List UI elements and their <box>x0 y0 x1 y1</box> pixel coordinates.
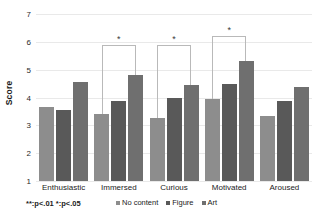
y-axis-tick-label: 2 <box>27 149 31 158</box>
bar[interactable] <box>205 99 220 181</box>
bar-group <box>36 14 91 181</box>
bar[interactable] <box>222 84 237 181</box>
bar[interactable] <box>277 101 292 181</box>
bar-group <box>202 14 257 181</box>
category-label: Immersed <box>91 183 146 196</box>
legend-item[interactable]: Art <box>202 198 218 207</box>
legend-label: Art <box>208 198 218 207</box>
y-axis-title: Score <box>4 67 14 119</box>
bar[interactable] <box>73 82 88 181</box>
y-axis-tick-label: 1 <box>27 177 31 186</box>
legend-label: No content <box>122 198 158 207</box>
bars <box>257 14 312 181</box>
bar[interactable] <box>150 118 165 181</box>
category-label: Motivated <box>202 183 257 196</box>
bar-groups <box>36 14 312 181</box>
legend-swatch-icon <box>202 201 206 205</box>
category-label: Aroused <box>257 183 312 196</box>
legend-item[interactable]: Figure <box>166 198 193 207</box>
bar[interactable] <box>294 87 309 181</box>
bar[interactable] <box>128 75 143 181</box>
bar[interactable] <box>111 101 126 181</box>
bar[interactable] <box>39 107 54 181</box>
significance-footnote: **:p<.01 *:p<.05 <box>26 199 81 208</box>
legend-swatch-icon <box>116 201 120 205</box>
bars <box>146 14 201 181</box>
y-axis-tick-label: 3 <box>27 121 31 130</box>
bar-group <box>146 14 201 181</box>
legend: No contentFigureArt <box>116 198 217 207</box>
plot-area: 1234567 *** <box>36 14 312 181</box>
bar[interactable] <box>260 116 275 181</box>
bars <box>36 14 91 181</box>
legend-label: Figure <box>172 198 193 207</box>
legend-item[interactable]: No content <box>116 198 158 207</box>
bar[interactable] <box>239 61 254 181</box>
y-axis-tick-label: 5 <box>27 65 31 74</box>
category-axis-labels: EnthusiasticImmersedCuriousMotivatedArou… <box>36 183 312 196</box>
category-label: Curious <box>146 183 201 196</box>
y-axis-tick-label: 4 <box>27 93 31 102</box>
bar[interactable] <box>184 85 199 181</box>
bars <box>202 14 257 181</box>
y-axis-tick-label: 6 <box>27 37 31 46</box>
footer-row: **:p<.01 *:p<.05 No contentFigureArt <box>0 198 317 212</box>
bar-group <box>91 14 146 181</box>
bars <box>91 14 146 181</box>
category-label: Enthusiastic <box>36 183 91 196</box>
gridline <box>36 181 312 182</box>
legend-swatch-icon <box>166 201 170 205</box>
bar[interactable] <box>94 114 109 181</box>
bar-group <box>257 14 312 181</box>
y-axis-tick-label: 7 <box>27 10 31 19</box>
bar[interactable] <box>167 98 182 181</box>
bar-chart: Score 1234567 *** EnthusiasticImmersedCu… <box>0 0 317 224</box>
bar[interactable] <box>56 110 71 181</box>
